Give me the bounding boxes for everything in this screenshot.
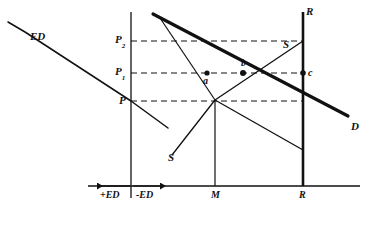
axis-minus-ed-label: -ED [136, 190, 153, 200]
supply-curve-label: S [283, 39, 289, 50]
demand-curve-label: D [351, 121, 359, 132]
point-c-marker [300, 70, 306, 76]
price-p1-subscript: 1 [122, 74, 126, 82]
price-p1-label: P1 [115, 66, 125, 80]
axis-tick-r-label: R [299, 190, 306, 200]
diagram-canvas [0, 0, 369, 230]
ed-curve-label: ED [30, 31, 45, 42]
axis-tick-m-label: M [211, 190, 220, 200]
price-p-label: P [119, 95, 126, 106]
price-p2-subscript: 2 [122, 42, 126, 50]
point-b-marker [240, 70, 246, 76]
point-a-label: a [203, 76, 208, 86]
price-p1-letter: P [115, 65, 122, 77]
axis-plus-ed-label: +ED [100, 190, 120, 200]
price-p2-letter: P [115, 33, 122, 45]
economics-diagram: ED P2 P1 P a b c S S R D M R +ED -ED [0, 0, 369, 230]
point-b-label: b [241, 58, 246, 68]
supply-curve-lower-label: S [168, 152, 174, 163]
ration-line-top-label: R [306, 6, 313, 17]
price-p2-label: P2 [115, 34, 125, 48]
supply-down-branch [215, 100, 303, 150]
point-c-label: c [308, 68, 312, 78]
